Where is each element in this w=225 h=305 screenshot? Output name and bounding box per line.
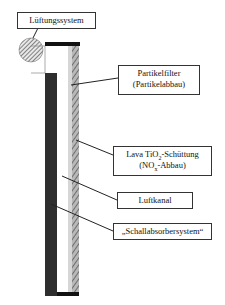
- label-air-channel: Luftkanal: [117, 192, 193, 209]
- label-ventilation-system: Lüftungssystem: [17, 12, 96, 29]
- label-ventilation-text: Lüftungssystem: [21, 15, 92, 26]
- sound-absorber-wall: [45, 73, 57, 296]
- label-sound-absorber-text: „Schallabsorbersystem“: [117, 226, 208, 237]
- label-air-channel-text: Luftkanal: [121, 195, 189, 206]
- lava-line2-post: -Abbau): [157, 160, 185, 170]
- air-channel: [57, 46, 68, 292]
- lava-line1-post: -Schüttung: [162, 149, 199, 159]
- label-particle-filter: Partikelfilter (Partikelabbau): [118, 65, 200, 95]
- label-lava-line1: Lava TiO2-Schüttung: [117, 149, 208, 160]
- label-particle-filter-line2: (Partikelabbau): [122, 79, 196, 90]
- label-particle-filter-line1: Partikelfilter: [122, 68, 196, 79]
- lava-line1-pre: Lava TiO: [126, 149, 158, 159]
- bottom-bar: [57, 292, 79, 296]
- label-lava-tio2: Lava TiO2-Schüttung (NOx-Abbau): [113, 146, 212, 176]
- label-lava-line2: (NOx-Abbau): [117, 160, 208, 171]
- lava-line2-pre: (NO: [139, 160, 154, 170]
- particle-filter-strip: [68, 46, 72, 296]
- leader-lava: [76, 140, 113, 155]
- label-sound-absorber: „Schallabsorbersystem“: [113, 223, 212, 240]
- top-bar: [45, 42, 80, 46]
- ventilation-unit: [19, 38, 43, 62]
